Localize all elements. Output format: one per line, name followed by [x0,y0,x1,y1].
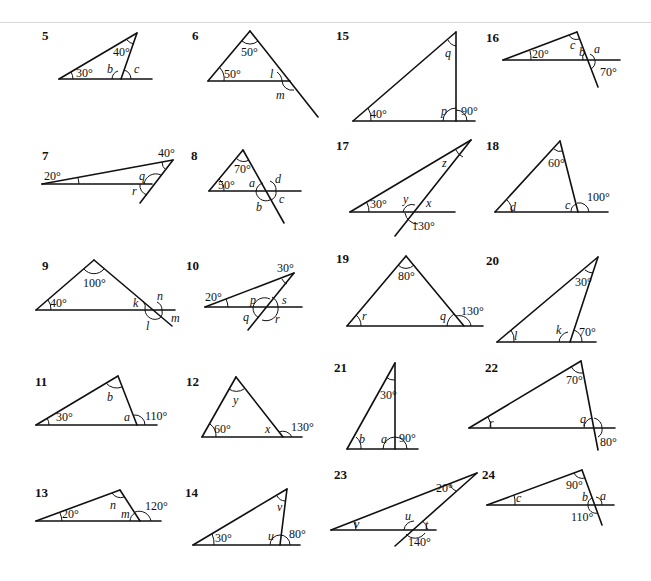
svg-text:130°: 130° [412,219,435,233]
problem-18: 18 60° d c 100° [486,138,610,214]
svg-text:a: a [124,410,130,424]
svg-text:u: u [405,509,411,523]
svg-text:90°: 90° [399,431,416,445]
svg-text:c: c [516,491,522,505]
svg-text:70°: 70° [234,162,251,176]
svg-text:30°: 30° [380,388,397,402]
problem-19: 19 80° r q 130° [336,251,484,326]
svg-text:l: l [514,329,518,343]
problem-number: 16 [486,30,500,45]
problem-17: 17 z 30° y x 130° [336,138,471,236]
svg-text:n: n [157,289,163,303]
svg-text:n: n [110,498,116,512]
svg-text:140°: 140° [408,535,431,549]
svg-text:d: d [510,200,517,214]
svg-text:50°: 50° [241,45,258,59]
problem-5: 5 30° 40° b c [42,28,152,80]
svg-text:b: b [579,45,585,59]
svg-text:v: v [354,517,360,531]
svg-text:p: p [440,104,447,118]
svg-text:r: r [489,416,494,430]
svg-text:80°: 80° [600,435,617,449]
svg-text:30°: 30° [76,66,93,80]
svg-text:a: a [249,176,255,190]
problem-23: 23 20° v u t 140° [331,467,477,549]
svg-text:20°: 20° [532,47,549,61]
problem-number: 20 [486,253,499,268]
svg-text:y: y [402,192,409,206]
svg-text:50°: 50° [224,67,241,81]
svg-text:20°: 20° [44,169,61,183]
svg-text:z: z [441,156,447,170]
problem-number: 19 [336,251,350,266]
problem-number: 7 [42,148,49,163]
svg-text:r: r [362,309,367,323]
svg-text:70°: 70° [579,325,596,339]
problem-number: 24 [482,467,496,482]
problem-8: 8 70° 50° a d b c [191,148,301,223]
problem-22: 22 70° r q 80° [469,360,617,450]
svg-text:80°: 80° [289,527,306,541]
svg-text:x: x [264,422,271,436]
problem-number: 10 [186,258,199,273]
svg-text:c: c [565,198,571,212]
problem-6: 6 50° 50° l m [192,28,318,117]
svg-text:60°: 60° [214,422,231,436]
svg-text:a: a [381,432,387,446]
problem-number: 17 [336,138,350,153]
problem-10: 10 30° 20° p s q r [186,258,302,330]
svg-text:s: s [282,293,287,307]
svg-text:q: q [139,169,145,183]
svg-text:30°: 30° [215,531,232,545]
svg-text:40°: 40° [113,45,130,59]
svg-text:20°: 20° [436,481,453,495]
svg-text:b: b [582,490,588,504]
svg-text:q: q [580,412,586,426]
svg-text:70°: 70° [566,373,583,387]
svg-text:c: c [279,192,285,206]
svg-text:50°: 50° [218,178,235,192]
svg-text:k: k [556,323,562,337]
svg-text:80°: 80° [398,269,415,283]
svg-text:u: u [268,529,274,543]
svg-text:130°: 130° [461,304,484,318]
problem-7: 7 20° 40° q r [42,146,175,203]
problem-14: 14 v 30° u 80° [185,485,306,545]
problem-12: 12 y 60° x 130° [186,374,314,437]
svg-text:r: r [132,184,137,198]
problem-number: 9 [42,258,49,273]
svg-text:y: y [232,393,239,407]
svg-text:q: q [440,309,446,323]
svg-text:120°: 120° [145,499,168,513]
problem-number: 18 [486,138,500,153]
svg-text:b: b [107,62,113,76]
problem-number: 14 [185,485,199,500]
problem-13: 13 n 20° m 120° [35,485,168,521]
svg-text:b: b [256,200,262,214]
problem-20: 20 30° l k 70° [486,253,598,343]
svg-text:100°: 100° [587,190,610,204]
svg-text:c: c [134,62,140,76]
svg-text:20°: 20° [62,507,79,521]
problem-number: 8 [191,148,198,163]
problem-number: 11 [35,374,47,389]
problem-number: 12 [186,374,199,389]
problem-number: 6 [192,28,199,43]
svg-text:p: p [249,293,256,307]
svg-text:a: a [594,42,600,56]
svg-text:m: m [276,88,285,102]
svg-text:q: q [445,46,451,60]
svg-text:d: d [275,172,282,186]
svg-text:m: m [171,311,180,325]
svg-text:m: m [121,507,130,521]
svg-text:70°: 70° [600,65,617,79]
svg-text:30°: 30° [370,197,387,211]
problem-24: 24 90° c b a 110° [482,467,614,525]
problem-number: 13 [35,485,49,500]
svg-text:130°: 130° [291,420,314,434]
problem-number: 22 [485,360,498,375]
svg-text:c: c [570,38,576,52]
svg-text:r: r [275,312,280,326]
svg-text:b: b [107,390,113,404]
triangle-exercises-diagram: 5 30° 40° b c 6 50° 50° l m 7 2 [0,0,651,581]
